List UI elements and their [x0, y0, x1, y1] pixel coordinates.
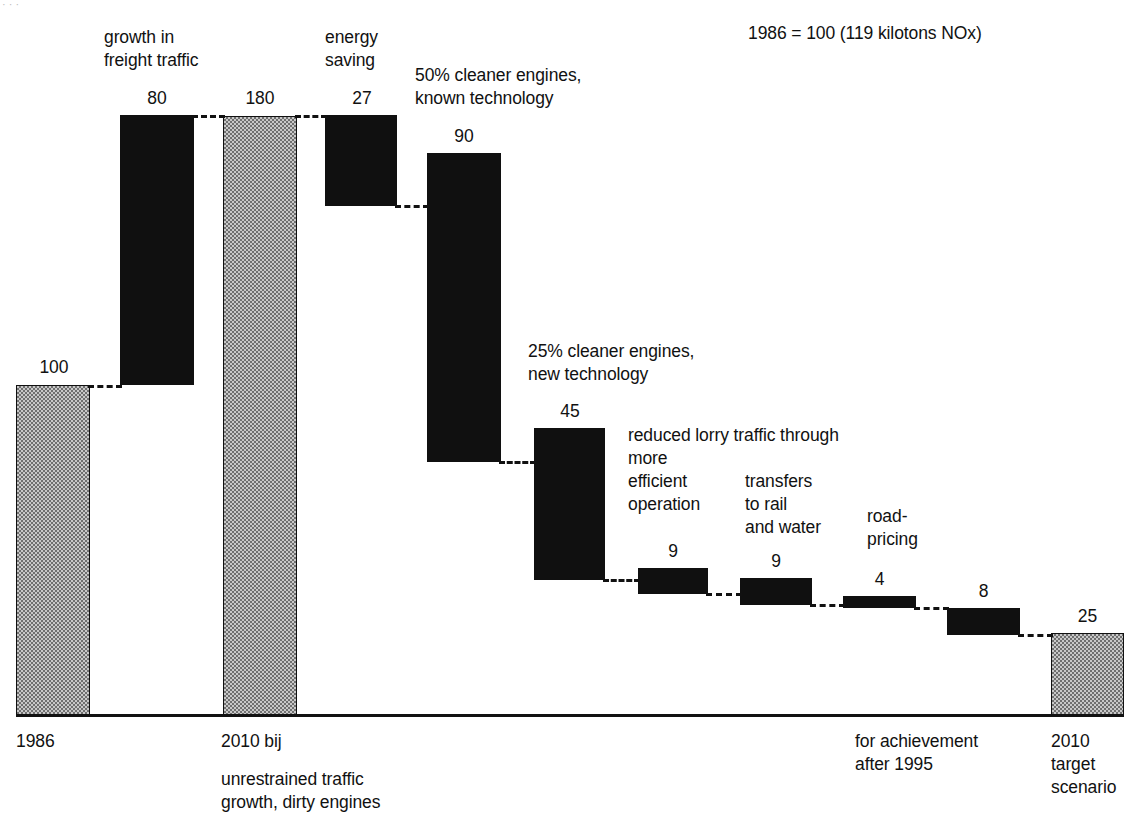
label-energy-saving: energy saving — [325, 26, 378, 72]
axis-label-2010-bij: 2010 bij — [221, 730, 282, 753]
bar-cleaner-25 — [534, 428, 605, 580]
connector-achievement-to-target — [1018, 634, 1053, 637]
value-label-2010-bij: 180 — [223, 88, 297, 108]
bar-growth-freight — [120, 115, 194, 385]
bar-1986 — [16, 385, 90, 716]
label-50-percent-cleaner-engines: 50% cleaner engines, known technology — [415, 64, 581, 110]
chart-note: 1986 = 100 (119 kilotons NOx) — [748, 22, 982, 45]
connector-cleaner50-to-cleaner25 — [499, 461, 536, 464]
baseline-axis — [16, 714, 1124, 717]
connector-2010bij-to-energy — [295, 115, 327, 118]
value-label-cleaner-25: 45 — [534, 401, 606, 421]
label-25-percent-cleaner-engines: 25% cleaner engines, new technology — [528, 340, 694, 386]
value-label-transfers: 9 — [740, 551, 812, 571]
axis-label-1986: 1986 — [16, 730, 55, 753]
value-label-cleaner-50: 90 — [427, 126, 501, 146]
connector-growth-to-2010bij — [192, 115, 225, 118]
connector-lorry-to-transfers — [706, 593, 742, 596]
value-label-road-pricing: 4 — [843, 569, 916, 589]
value-label-energy-saving: 27 — [325, 88, 399, 108]
bar-target-scenario — [1051, 633, 1124, 716]
bar-reduced-lorry — [638, 568, 708, 594]
bar-energy-saving — [325, 115, 397, 206]
bar-transfers — [740, 578, 812, 605]
bar-2010-bij — [223, 116, 297, 716]
value-label-reduced-lorry: 9 — [638, 541, 708, 561]
axis-label-unrestrained-traffic: unrestrained traffic growth, dirty engin… — [221, 768, 380, 814]
bar-achievement — [947, 608, 1020, 635]
value-label-achievement: 8 — [947, 581, 1020, 601]
label-transfers-to-rail-and-water: transfers to rail and water — [745, 470, 821, 539]
axis-label-2010-target-scenario: 2010 target scenario — [1051, 730, 1116, 799]
connector-1986-to-growth — [88, 385, 122, 388]
label-growth-in-freight-traffic: growth in freight traffic — [104, 26, 198, 72]
value-label-1986: 100 — [17, 357, 91, 377]
bar-cleaner-50 — [427, 153, 501, 462]
connector-energy-to-cleaner50 — [395, 205, 429, 208]
connector-transfers-to-roadpricing — [810, 604, 845, 607]
connector-roadpricing-to-achievement — [914, 607, 949, 610]
connector-cleaner25-to-lorry — [603, 579, 640, 582]
scan-artifact-icon: · · · — [2, 0, 19, 10]
value-label-growth-freight: 80 — [120, 88, 194, 108]
axis-label-for-achievement: for achievement after 1995 — [855, 730, 978, 776]
bar-road-pricing — [843, 596, 916, 608]
waterfall-chart: · · · 1986 = 100 (119 kilotons NOx) grow… — [0, 0, 1143, 820]
value-label-target-scenario: 25 — [1051, 606, 1124, 626]
label-road-pricing: road- pricing — [867, 505, 918, 551]
